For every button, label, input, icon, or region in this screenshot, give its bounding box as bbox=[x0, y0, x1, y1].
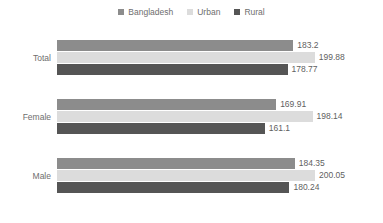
legend-item-urban[interactable]: Urban bbox=[187, 8, 220, 17]
bar-value-label: 161.1 bbox=[265, 123, 290, 134]
legend-square-icon bbox=[118, 9, 124, 15]
category-label: Male bbox=[0, 156, 51, 196]
bar-value-label: 178.77 bbox=[288, 64, 318, 75]
bar-value-label: 198.14 bbox=[313, 111, 343, 122]
bar-row: 161.1 bbox=[57, 123, 383, 134]
chart-legend: Bangladesh Urban Rural bbox=[0, 8, 383, 17]
plot-area: Total 183.2 199.88 178.77 Female 169.91 bbox=[0, 34, 383, 214]
bar-row: 180.24 bbox=[57, 182, 383, 193]
legend-label: Urban bbox=[197, 8, 220, 17]
bar-row: 198.14 bbox=[57, 111, 383, 122]
bar-group: Male 184.35 200.05 180.24 bbox=[0, 156, 383, 196]
bar-row: 183.2 bbox=[57, 40, 383, 51]
bar-rural[interactable] bbox=[57, 182, 289, 193]
bar-rural[interactable] bbox=[57, 123, 265, 134]
category-label: Female bbox=[0, 97, 51, 137]
bar-row: 178.77 bbox=[57, 64, 383, 75]
bar-bangladesh[interactable] bbox=[57, 40, 293, 51]
bar-rural[interactable] bbox=[57, 64, 288, 75]
bar-bangladesh[interactable] bbox=[57, 158, 295, 169]
bar-value-label: 199.88 bbox=[315, 52, 345, 63]
legend-item-bangladesh[interactable]: Bangladesh bbox=[118, 8, 173, 17]
bar-urban[interactable] bbox=[57, 52, 315, 63]
bar-value-label: 183.2 bbox=[293, 40, 318, 51]
bar-value-label: 184.35 bbox=[295, 158, 325, 169]
category-label: Total bbox=[0, 38, 51, 78]
bar-row: 200.05 bbox=[57, 170, 383, 181]
bar-value-label: 200.05 bbox=[315, 170, 345, 181]
legend-square-icon bbox=[187, 9, 193, 15]
legend-square-icon bbox=[234, 9, 240, 15]
bar-value-label: 180.24 bbox=[289, 182, 319, 193]
bar-row: 199.88 bbox=[57, 52, 383, 63]
bar-urban[interactable] bbox=[57, 111, 313, 122]
bar-row: 169.91 bbox=[57, 99, 383, 110]
legend-label: Bangladesh bbox=[128, 8, 173, 17]
legend-label: Rural bbox=[244, 8, 264, 17]
bar-urban[interactable] bbox=[57, 170, 315, 181]
bar-chart: Bangladesh Urban Rural Total 183.2 199.8… bbox=[0, 0, 383, 223]
bar-row: 184.35 bbox=[57, 158, 383, 169]
bar-group: Female 169.91 198.14 161.1 bbox=[0, 97, 383, 137]
bar-group: Total 183.2 199.88 178.77 bbox=[0, 38, 383, 78]
bar-bangladesh[interactable] bbox=[57, 99, 276, 110]
legend-item-rural[interactable]: Rural bbox=[234, 8, 264, 17]
bar-value-label: 169.91 bbox=[276, 99, 306, 110]
